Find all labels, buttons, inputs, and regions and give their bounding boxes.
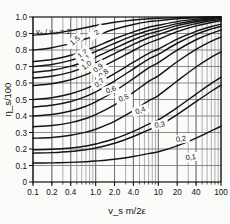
- y-tick-label: 0.9: [16, 30, 28, 39]
- x-tick-labels: 0.10.20.41.02.04.0102040100: [27, 188, 228, 197]
- x-tick-label: 0.1: [27, 188, 39, 197]
- y-tick-label: 0.2: [16, 145, 28, 154]
- x-tick-label: 0.2: [46, 188, 58, 197]
- curve-label-text: 0,2: [175, 134, 186, 144]
- curve-label-text: 0,1: [185, 152, 196, 162]
- legend-text: vₛ / vₛₜ = 2: [36, 27, 71, 36]
- y-tick-label: 0.6: [16, 79, 28, 88]
- curve-label-text: 0,3: [154, 119, 165, 129]
- x-axis-title: v_s m/2ε: [108, 205, 146, 216]
- x-tick-label: 10: [154, 188, 164, 197]
- y-tick-label: 0: [22, 178, 27, 187]
- y-tick-label: 0.1: [16, 162, 28, 171]
- x-tick-label: 4.0: [128, 188, 140, 197]
- efficiency-chart: 0.10.20.41.02.04.0102040100 00.10.20.30.…: [0, 0, 230, 224]
- y-tick-label: 0.4: [16, 112, 28, 121]
- y-tick-label: 0.8: [16, 46, 28, 55]
- x-tick-label: 0.4: [65, 188, 77, 197]
- y-tick-label: 1.0: [16, 13, 28, 22]
- y-axis-title: η_s/100: [2, 83, 13, 117]
- x-tick-label: 40: [192, 188, 202, 197]
- y-tick-label: 0.5: [16, 96, 28, 105]
- y-tick-label: 0.7: [16, 63, 28, 72]
- x-tick-label: 2.0: [109, 188, 121, 197]
- chart-figure: 0.10.20.41.02.04.0102040100 00.10.20.30.…: [0, 0, 230, 224]
- legend-annotation: vₛ / vₛₜ = 2: [36, 27, 71, 36]
- x-tick-label: 1.0: [90, 188, 102, 197]
- y-tick-label: 0.3: [16, 129, 28, 138]
- x-tick-label: 100: [214, 188, 228, 197]
- x-tick-label: 20: [173, 188, 183, 197]
